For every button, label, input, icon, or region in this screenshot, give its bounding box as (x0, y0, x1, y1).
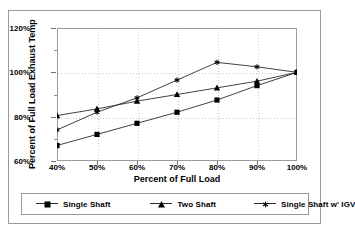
y-axis-title: Percent of Full Load Exhaust Temp (27, 29, 37, 169)
x-tick-50 (97, 161, 98, 165)
legend-label-single-shaft-igv: Single Shaft w' IGV (281, 200, 355, 209)
legend-item-two-shaft[interactable]: Two Shaft (150, 199, 216, 209)
triangle-marker-icon (150, 199, 172, 209)
data-point-0-2 (134, 121, 139, 126)
legend-label-single-shaft: Single Shaft (63, 200, 110, 209)
star-marker-icon (254, 199, 276, 209)
data-point-0-3 (174, 110, 179, 115)
legend-label-two-shaft: Two Shaft (177, 200, 216, 209)
y-tick-label-120: 120% (10, 24, 30, 33)
data-point-0-4 (214, 97, 219, 102)
y-tick-label-100: 100% (10, 68, 30, 77)
data-point-0-0 (57, 143, 60, 148)
x-tick-70 (177, 161, 178, 165)
x-tick-80 (217, 161, 218, 165)
x-tick-90 (257, 161, 258, 165)
y-tick-100 (51, 72, 56, 73)
x-tick-60 (137, 161, 138, 165)
plot-container: Percent of Full Load Exhaust Temp Percen… (9, 11, 322, 189)
y-tick-label-80: 80% (14, 112, 30, 121)
series-layer (57, 28, 297, 161)
legend-item-single-shaft-igv[interactable]: Single Shaft w' IGV (254, 199, 355, 209)
legend-item-single-shaft[interactable]: Single Shaft (36, 199, 110, 209)
data-point-2-0 (57, 127, 59, 132)
y-tick-60 (51, 161, 56, 162)
data-point-2-3 (175, 77, 180, 82)
data-point-2-2 (135, 95, 140, 100)
square-marker-icon (36, 199, 58, 209)
x-axis-title: Percent of Full Load (57, 174, 297, 184)
y-tick-80 (51, 117, 56, 118)
y-tick-120 (51, 28, 56, 29)
y-tick-label-60: 60% (14, 157, 30, 166)
data-point-0-1 (94, 132, 99, 137)
data-point-0-5 (254, 83, 259, 88)
chart-frame: Percent of Full Load Exhaust Temp Percen… (8, 10, 321, 224)
series-line-0 (57, 72, 297, 145)
chart-legend: Single Shaft Two Shaft Single Shaf (21, 193, 309, 215)
x-tick-label-40: 40% (49, 163, 65, 172)
x-tick-label-100: 100% (287, 163, 307, 172)
